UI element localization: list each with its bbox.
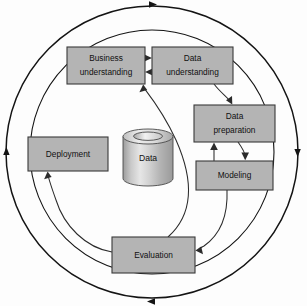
edge-arrowhead [210,142,218,150]
node-data-understanding[interactable]: Data understanding [152,47,233,84]
edge-modeling-to-evaluation [195,190,227,254]
crisp-dm-diagram: Data Business understanding Data underst… [0,0,307,306]
edge-arrowhead [195,247,203,255]
edge-arrowhead [44,171,52,179]
modeling-label: Modeling [218,170,252,180]
node-deployment[interactable]: Deployment [28,137,108,171]
edge-data-understanding-to-data-preparation [214,84,232,104]
node-evaluation[interactable]: Evaluation [112,237,195,273]
outer-ring-arrowhead-left [3,147,9,155]
data-preparation-label-line1: Data [226,111,244,121]
crisp-dm-canvas: Data Business understanding Data underst… [0,0,307,306]
evaluation-label: Evaluation [134,250,173,260]
edge-arrowhead [241,153,249,161]
business-understanding-label-line2: understanding [80,67,133,77]
edge-line [199,190,227,249]
outer-ring-arrowhead-right [294,149,300,157]
edge-evaluation-to-deployment [44,171,112,252]
outer-ring-arrowhead-top [149,1,157,8]
data-understanding-label-line1: Data [184,53,202,63]
data-cylinder-label: Data [139,153,157,163]
data-preparation-label-line2: preparation [214,125,256,135]
node-modeling[interactable]: Modeling [196,161,273,190]
node-data-preparation[interactable]: Data preparation [194,105,275,142]
data-cylinder: Data [123,129,173,186]
outer-ring-arrowhead-bottom [147,298,155,305]
data-understanding-label-line2: understanding [166,67,219,77]
edge-modeling-to-data-preparation [210,142,218,161]
deployment-label: Deployment [46,149,91,159]
data-cylinder-opening [134,132,163,140]
edge-line [214,84,230,101]
node-business-understanding[interactable]: Business understanding [67,47,145,84]
edge-line [48,175,112,252]
business-understanding-label-line1: Business [89,53,123,63]
edge-data-preparation-to-modeling [238,142,249,160]
